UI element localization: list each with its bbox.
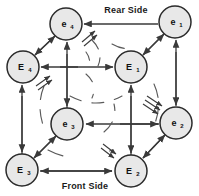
node-e1[interactable]: e 1 (159, 6, 191, 38)
arc-left-interior (40, 86, 44, 128)
node-E4[interactable]: E 4 (7, 51, 39, 83)
diagram-canvas: e 4 e 1 E 4 E 1 e 3 (0, 0, 199, 196)
front-side-label: Front Side (62, 181, 109, 191)
rear-side-label: Rear Side (104, 5, 147, 15)
node-e2[interactable]: e 2 (160, 107, 192, 139)
node-label-E3: E (17, 165, 23, 175)
mark-rear-right (143, 96, 162, 114)
node-E2[interactable]: E 2 (115, 155, 147, 187)
arc-lower-center (104, 104, 115, 132)
node-label-e2: e (171, 118, 176, 128)
arc-top-interior-2 (112, 44, 136, 49)
arc-center-interior (70, 96, 122, 103)
arc-top-interior (92, 40, 100, 66)
node-E1[interactable]: E 1 (115, 51, 147, 83)
node-label-E2: E (126, 166, 132, 176)
mark-front-left (36, 76, 52, 90)
arc-center-interior-2 (86, 74, 94, 98)
node-E3[interactable]: E 3 (6, 154, 38, 186)
node-label-E1: E (126, 62, 132, 72)
edge-depth-top-right-b (143, 34, 164, 55)
arc-upper-left-short (86, 52, 90, 68)
edge-depth-bottom-left-b (34, 136, 56, 158)
cube-graph-svg: e 4 e 1 E 4 E 1 e 3 (0, 0, 199, 196)
node-label-e1: e (170, 17, 175, 27)
node-label-E4: E (18, 62, 24, 72)
node-label-e4: e (61, 19, 66, 29)
node-e3[interactable]: e 3 (51, 108, 83, 140)
node-group: e 4 e 1 E 4 E 1 e 3 (6, 6, 192, 187)
mark-front-bottom (101, 144, 116, 158)
edge-depth-top-left-b (35, 36, 55, 55)
node-label-e3: e (62, 119, 67, 129)
arc-bottom-interior (48, 150, 112, 158)
edge-depth-bottom-right-b (143, 135, 165, 158)
node-e4[interactable]: e 4 (50, 8, 82, 40)
